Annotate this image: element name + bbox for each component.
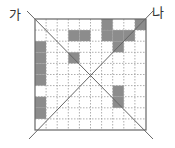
label-na: 나 (152, 6, 164, 19)
shaded-cell (113, 97, 124, 108)
shaded-cell (113, 86, 124, 97)
shaded-cell (102, 30, 113, 41)
shaded-cell (68, 30, 79, 41)
shaded-cell (35, 52, 46, 63)
shaded-cell (35, 75, 46, 86)
grid-diagram (0, 0, 175, 148)
shaded-cell (79, 30, 90, 41)
shaded-cell (35, 63, 46, 74)
label-ga: 가 (9, 8, 21, 21)
shaded-cell (113, 30, 124, 41)
shaded-cell (35, 41, 46, 52)
shaded-cell (35, 108, 46, 119)
shaded-cell (35, 97, 46, 108)
shaded-cell (102, 19, 113, 30)
